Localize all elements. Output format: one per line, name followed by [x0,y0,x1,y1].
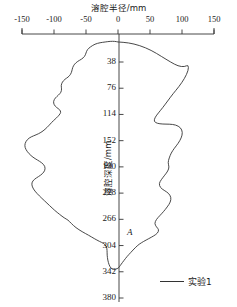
y-axis-tick-label: 76 [82,82,116,92]
y-axis-tick-label: 266 [82,213,116,223]
annotation-label: A [127,227,133,237]
y-axis-tick-label: 342 [82,266,116,276]
x-axis-tick-label: 150 [194,14,234,24]
plot-canvas [0,0,237,307]
x-axis-ticks [22,28,214,34]
legend-label: 实验1 [188,275,212,288]
chart-figure: 溶腔半径/mm -150-100-50050100150 38761141521… [0,0,237,307]
axis-layer [22,28,214,302]
y-axis-tick-label: 304 [82,240,116,250]
y-axis-title: 溶腔深度/mm [101,141,113,196]
legend-swatch-line [160,281,184,282]
y-axis-tick-label: 380 [82,292,116,302]
legend: 实验1 [160,275,212,288]
y-axis-tick-label: 114 [82,108,116,118]
y-axis-tick-label: 38 [82,56,116,66]
